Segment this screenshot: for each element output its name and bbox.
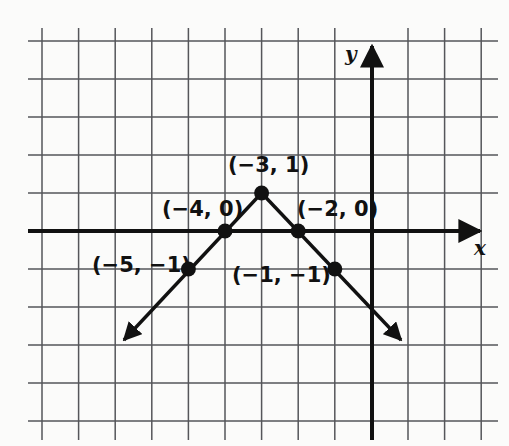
point-label-neg2-0: (−2, 0) [297, 199, 378, 220]
point-neg3-1 [254, 186, 269, 201]
point-neg2-0 [291, 224, 306, 239]
graph-figure: y x (−3, 1) (−4, 0) (−2, 0) (−5, −1) (−1… [0, 0, 509, 446]
point-label-neg5-neg1: (−5, −1) [92, 255, 191, 276]
coordinate-plane-svg [0, 0, 509, 446]
point-label-neg4-0: (−4, 0) [162, 199, 243, 220]
grid-vertical-lines [42, 28, 481, 440]
y-axis-label: y [345, 44, 357, 64]
point-neg4-0 [218, 224, 233, 239]
point-label-neg1-neg1: (−1, −1) [232, 265, 331, 286]
x-axis-label: x [474, 238, 486, 258]
point-label-neg3-1: (−3, 1) [228, 155, 309, 176]
